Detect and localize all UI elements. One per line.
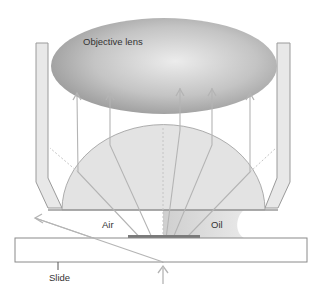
- slide-label: Slide: [49, 272, 70, 283]
- objective-lens-label: Objective lens: [83, 36, 143, 47]
- objective-lens: [51, 18, 277, 114]
- air-label: Air: [102, 219, 114, 230]
- slide: [15, 238, 307, 262]
- microscope-objective-diagram: [0, 0, 314, 285]
- oil-label: Oil: [211, 219, 223, 230]
